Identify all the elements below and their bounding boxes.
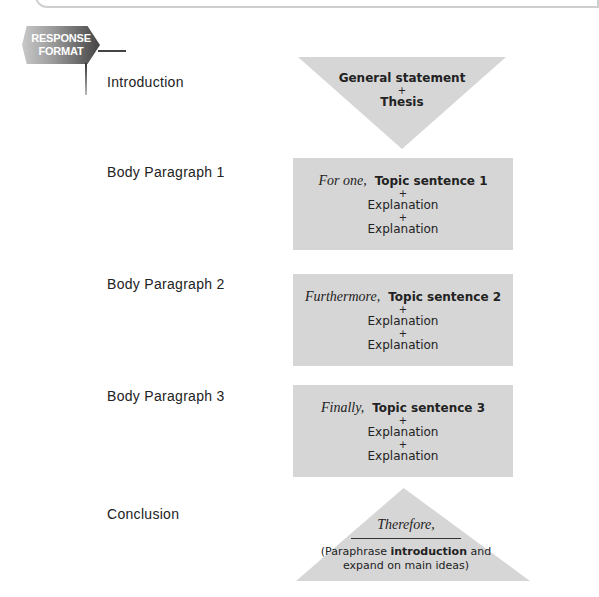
transition-phrase: Therefore,: [296, 518, 516, 532]
thesis: Thesis: [298, 95, 506, 110]
badge-line1: RESPONSE: [22, 32, 100, 45]
plus-sign: +: [293, 213, 513, 222]
top-frame-border: [35, 0, 599, 8]
badge-connector-horizontal: [98, 50, 126, 52]
body-3-content: Finally,Topic sentence 3 + Explanation +…: [293, 400, 513, 464]
label-body-paragraph-2: Body Paragraph 2: [107, 276, 225, 292]
paraphrase-text-end: and: [467, 545, 491, 558]
expand-text: expand on main ideas): [296, 559, 516, 573]
label-introduction: Introduction: [107, 74, 184, 90]
paraphrase-text: (Paraphrase: [321, 545, 391, 558]
explanation: Explanation: [293, 338, 513, 353]
conclusion-content: Therefore, (Paraphrase introduction and …: [296, 518, 516, 573]
explanation: Explanation: [293, 314, 513, 329]
label-body-paragraph-3: Body Paragraph 3: [107, 388, 225, 404]
explanation: Explanation: [293, 198, 513, 213]
topic-sentence: Topic sentence 1: [375, 174, 488, 188]
blank-line: [351, 538, 461, 539]
transition-phrase: Furthermore,: [305, 289, 380, 304]
topic-sentence: Topic sentence 3: [372, 401, 485, 415]
body-2-content: Furthermore,Topic sentence 2 + Explanati…: [293, 289, 513, 353]
explanation: Explanation: [293, 449, 513, 464]
plus-sign: +: [298, 86, 506, 95]
plus-sign: +: [293, 416, 513, 425]
plus-sign: +: [293, 329, 513, 338]
label-conclusion: Conclusion: [107, 506, 179, 522]
topic-sentence: Topic sentence 2: [388, 290, 501, 304]
explanation: Explanation: [293, 222, 513, 237]
plus-sign: +: [293, 305, 513, 314]
badge-line2: FORMAT: [22, 45, 100, 58]
badge-connector-vertical: [85, 63, 87, 95]
transition-phrase: Finally,: [321, 400, 364, 415]
body-1-content: For one,Topic sentence 1 + Explanation +…: [293, 173, 513, 237]
introduction-keyword: introduction: [390, 545, 466, 558]
introduction-content: General statement + Thesis: [298, 71, 506, 110]
response-format-badge: RESPONSE FORMAT: [22, 26, 100, 64]
general-statement: General statement: [298, 71, 506, 86]
transition-phrase: For one,: [318, 173, 366, 188]
plus-sign: +: [293, 189, 513, 198]
explanation: Explanation: [293, 425, 513, 440]
label-body-paragraph-1: Body Paragraph 1: [107, 164, 225, 180]
plus-sign: +: [293, 440, 513, 449]
